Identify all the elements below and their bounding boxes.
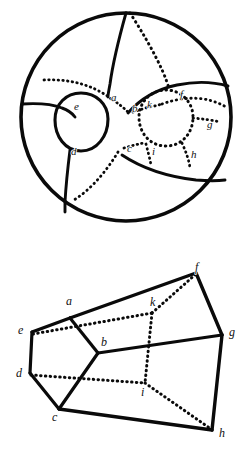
solid-label-k: k: [150, 295, 156, 309]
edge-d-e: [30, 332, 32, 373]
edge-b-c: [59, 353, 98, 409]
edge-k-i-hidden: [145, 313, 152, 383]
edge-g-h: [212, 335, 222, 430]
edge-b-g: [98, 335, 222, 353]
sphere-label-k: k: [147, 98, 153, 110]
solid-label-f: f: [195, 260, 200, 274]
solid-label-d: d: [16, 366, 23, 380]
figure-sheet: a b c d e f g h i k a b c d e f g: [0, 0, 252, 456]
sphere-outline: [21, 13, 231, 221]
edge-d-i-hidden: [31, 375, 145, 383]
sphere-label-c: c: [127, 142, 132, 154]
dotted-meridian-top-to-f: [130, 13, 169, 89]
arc-left-to-hole: [22, 104, 75, 117]
sphere-label-d: d: [71, 145, 77, 157]
solid-label-b: b: [101, 335, 107, 349]
left-hole-outline: [55, 93, 108, 151]
dotted-arc-c-lower-left: [72, 152, 118, 201]
dotted-arc-left-to-a: [44, 80, 111, 99]
sphere-label-g: g: [207, 118, 213, 130]
solid-label-e: e: [18, 323, 24, 337]
solid-label-a: a: [66, 294, 72, 308]
dotted-arc-k-to-right-edge: [162, 98, 226, 107]
dotted-arc-h-down: [182, 143, 190, 168]
solid-label-h: h: [219, 426, 225, 440]
sphere-label-a: a: [111, 91, 117, 103]
dotted-arc-i-down: [146, 144, 151, 165]
sphere-with-two-holes-diagram: a b c d e f g h i k: [0, 0, 252, 230]
solid-label-g: g: [229, 325, 235, 339]
meridian-upper-left: [108, 13, 126, 97]
edge-c-d: [30, 373, 59, 409]
sphere-label-i: i: [152, 145, 155, 157]
arc-lower-sweep: [122, 155, 225, 181]
edge-a-f: [70, 273, 196, 318]
edge-f-g: [196, 273, 222, 335]
sphere-label-h: h: [191, 148, 197, 160]
sphere-label-b: b: [132, 102, 138, 114]
solid-label-i: i: [141, 385, 144, 399]
sphere-label-e: e: [74, 100, 79, 112]
polyhedron-diagram: a b c d e f g h i k: [0, 230, 252, 456]
solid-label-c: c: [52, 410, 58, 424]
